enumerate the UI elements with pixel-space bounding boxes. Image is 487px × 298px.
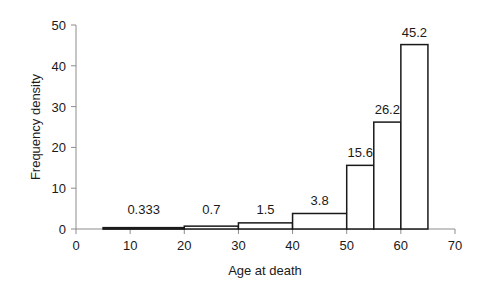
x-tick-label: 70 [448,238,462,253]
bar-value-label: 1.5 [256,202,274,217]
x-tick-label: 50 [339,238,353,253]
bar-value-label: 26.2 [375,102,400,117]
x-tick-label: 10 [123,238,137,253]
y-axis-title: Frequency density [28,73,43,180]
y-tick-label: 30 [52,100,66,115]
y-tick-label: 10 [52,181,66,196]
histogram-bar [401,45,428,229]
histogram-bar [184,226,238,229]
x-tick-label: 40 [285,238,299,253]
histogram-bar [347,165,374,229]
histogram-bar [293,213,347,229]
x-tick-label: 60 [394,238,408,253]
y-tick-label: 50 [52,18,66,33]
x-axis-title: Age at death [228,263,302,278]
x-tick-label: 0 [72,238,79,253]
bar-value-label: 3.8 [311,193,329,208]
x-tick-label: 20 [177,238,191,253]
bar-value-label: 45.2 [402,25,427,40]
bar-value-label: 0.7 [202,202,220,217]
y-tick-label: 0 [59,222,66,237]
y-axis: 01020304050 [52,18,76,237]
y-tick-label: 20 [52,140,66,155]
y-tick-label: 40 [52,59,66,74]
histogram-chart: 01020304050 010203040506070 0.3330.71.53… [0,0,487,298]
bar-value-label: 15.6 [348,145,373,160]
histogram-bar [238,223,292,229]
histogram-bar [103,228,184,230]
histogram-bar [374,122,401,229]
bar-value-label: 0.333 [127,202,160,217]
x-axis: 010203040506070 [72,229,462,253]
x-tick-label: 30 [231,238,245,253]
